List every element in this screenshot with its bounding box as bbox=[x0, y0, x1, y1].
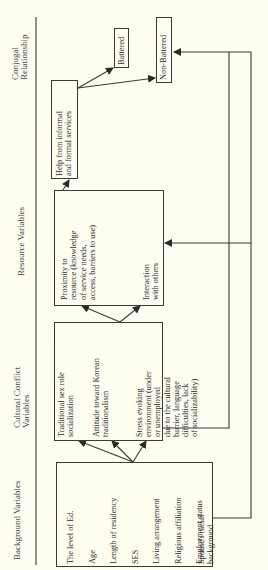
var-spouse-line2: background bbox=[206, 515, 215, 564]
header-cultural-line2: Variables bbox=[22, 367, 31, 428]
cultural-item-stress: Stress evoking environment (under or une… bbox=[135, 371, 199, 437]
cultural-item2-line2: traditionalism bbox=[101, 358, 110, 437]
var-living-arrangement: Living arrangement bbox=[146, 498, 168, 564]
resource-item1-line3: of service needs, bbox=[79, 225, 88, 300]
cultural-item1-line1: Traditional sex role bbox=[57, 372, 66, 437]
resource-item2-line1: Interaction bbox=[142, 263, 151, 300]
var-religious-affiliation: Religious affiliation bbox=[168, 498, 190, 564]
battered-label: Battered bbox=[117, 37, 126, 65]
cultural-item-attitude: Attitude toward Korean traditionalism bbox=[92, 358, 111, 437]
cultural-item3-line1: Stress evoking bbox=[135, 371, 144, 437]
resource-item2-line2: with others bbox=[151, 263, 160, 300]
cultural-item3-line2: environment (under bbox=[144, 371, 153, 437]
var-spouse-line1: Spouse's racial bbox=[197, 515, 206, 564]
var-age: Age bbox=[82, 498, 104, 564]
cultural-item3-line4: due to the cultural bbox=[163, 371, 172, 437]
cultural-item3-line7: of socializability) bbox=[190, 371, 199, 437]
non-battered-label: Non-Battered bbox=[159, 35, 168, 80]
cultural-item3-line3: or unemployed bbox=[153, 371, 162, 437]
header-conjugal-relationship: Conjugal Relationship bbox=[11, 35, 30, 81]
cultural-item3-line5: barrier, language bbox=[172, 371, 181, 437]
header-conjugal-line2: Relationship bbox=[20, 35, 29, 81]
resource-item1-line1: Proximity to bbox=[60, 225, 69, 300]
background-variables-list: The level of Ed. Age Length of residency… bbox=[60, 498, 211, 564]
cultural-item2-line1: Attitude toward Korean bbox=[92, 358, 101, 437]
header-resource-variables: Resource Variables bbox=[17, 207, 26, 276]
var-spouse-racial-background: Spouse's racial background bbox=[197, 515, 216, 564]
resource-item1-line2: resource (knowledge bbox=[69, 225, 78, 300]
header-cultural-conflict: Cultural Conflict Variables bbox=[13, 367, 32, 428]
help-line2: and formal services bbox=[64, 111, 73, 176]
cultural-item1-line2: socialization bbox=[66, 372, 75, 437]
var-education: The level of Ed. bbox=[60, 498, 82, 564]
var-ses: SES bbox=[125, 498, 147, 564]
cultural-item3-line6: difficulties, lack bbox=[181, 371, 190, 437]
resource-item1-line4: access, barriers to use) bbox=[88, 225, 97, 300]
resource-item-interaction: Interaction with others bbox=[142, 263, 161, 300]
help-services-label: Help from informal and formal services bbox=[55, 111, 74, 176]
help-line1: Help from informal bbox=[55, 111, 64, 176]
cultural-item-sex-role: Traditional sex role socialization bbox=[57, 372, 76, 437]
header-background-variables: Background Variables bbox=[13, 480, 22, 560]
resource-item-proximity: Proximity to resource (knowledge of serv… bbox=[60, 225, 98, 300]
var-length-of-residency: Length of residency bbox=[103, 498, 125, 564]
